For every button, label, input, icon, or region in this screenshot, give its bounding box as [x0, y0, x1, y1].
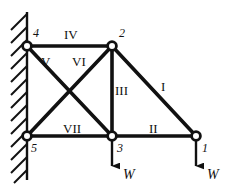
member-label-VII: VII	[63, 122, 81, 135]
member-label-II: II	[149, 122, 158, 135]
member-label-III: III	[115, 84, 128, 97]
member-label-I: I	[161, 80, 165, 93]
node-label-1: 1	[202, 142, 208, 154]
node-label-5: 5	[31, 142, 37, 154]
node-5-circle	[23, 132, 32, 141]
member-label-V: V	[41, 55, 50, 68]
truss-diagram: I II III IV V VI VII 1 2 3 4 5 W W	[0, 0, 227, 191]
node-label-3: 3	[117, 142, 123, 154]
member-label-VI: VI	[72, 55, 86, 68]
load-arrows	[112, 140, 196, 166]
truss-members	[27, 46, 196, 136]
node-1-circle	[192, 132, 201, 141]
node-label-4: 4	[33, 27, 39, 39]
node-3-circle	[108, 132, 117, 141]
load-label-node-1: W	[207, 168, 219, 182]
node-2-circle	[108, 42, 117, 51]
node-4-circle	[23, 42, 32, 51]
wall-hatching	[11, 14, 27, 183]
node-label-2: 2	[119, 27, 125, 39]
load-label-node-3: W	[123, 168, 135, 182]
hatched-wall	[11, 12, 27, 183]
member-label-IV: IV	[64, 28, 78, 41]
